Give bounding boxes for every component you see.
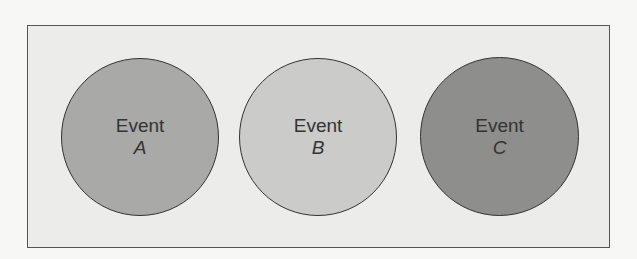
event-a-label: Event [116, 115, 165, 137]
event-c-letter: C [493, 137, 507, 159]
event-c-label: Event [475, 115, 524, 137]
event-b-letter: B [312, 137, 325, 159]
event-b-label: Event [294, 115, 343, 137]
event-c-circle: Event C [420, 57, 579, 216]
event-b-circle: Event B [239, 58, 397, 216]
event-a-letter: A [134, 137, 147, 159]
event-a-circle: Event A [61, 58, 219, 216]
